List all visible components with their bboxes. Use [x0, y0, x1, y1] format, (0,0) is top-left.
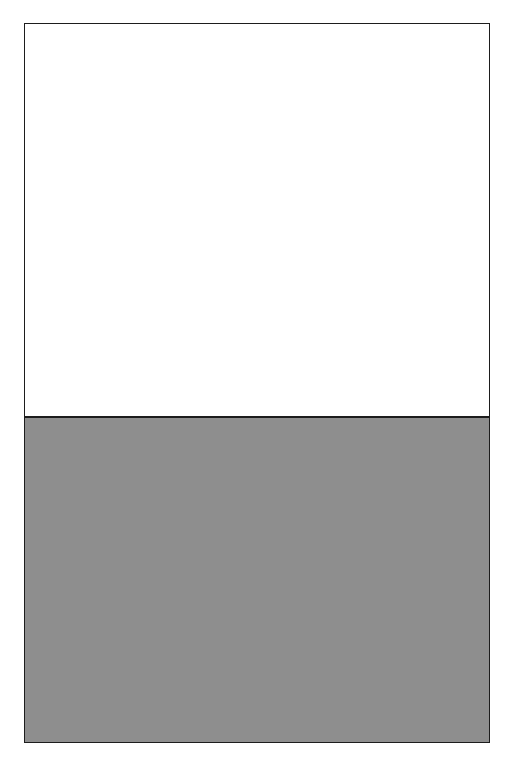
chevron-stripe-panel — [25, 418, 490, 743]
striped-floral-band-strip — [25, 24, 490, 416]
pattern-plate — [24, 23, 490, 743]
striped-floral-panel — [25, 24, 490, 416]
